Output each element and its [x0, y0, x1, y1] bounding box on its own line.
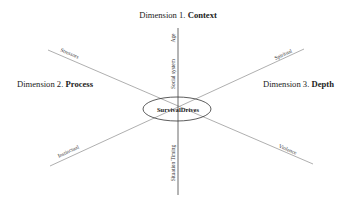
axis-label-violence: Violence: [278, 143, 299, 156]
dimension-3-title: Dimension 3. Depth: [263, 79, 334, 89]
center-label: SurvivalDrives: [157, 106, 200, 113]
axis-label-situation-timing: Situation Timing: [170, 144, 176, 181]
survival-drives-diagram: SurvivalDrives Dimension 1. Context Dime…: [0, 0, 363, 207]
axis-label-instinctual: Instinctual: [57, 143, 81, 158]
axis-label-stressors: Stressors: [60, 47, 80, 60]
dimension-1-title: Dimension 1. Context: [139, 10, 217, 20]
axis-label-social-system: Social system: [170, 58, 176, 89]
axis-label-age: Age: [170, 33, 176, 43]
dimension-2-title: Dimension 2. Process: [17, 79, 94, 89]
